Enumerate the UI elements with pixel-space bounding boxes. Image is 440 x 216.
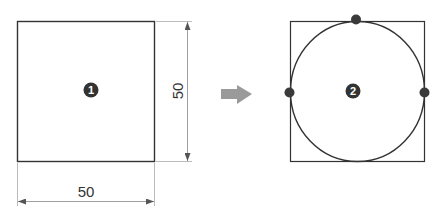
step2-marker-number: 2 xyxy=(350,85,356,97)
width-dimension-label: 50 xyxy=(78,183,95,200)
tangent-point-right xyxy=(420,88,430,98)
tangent-point-top xyxy=(351,15,361,25)
tangent-point-left xyxy=(285,88,295,98)
right-arrow-icon xyxy=(221,85,252,104)
step1-marker-number: 1 xyxy=(88,84,94,96)
height-dimension-label: 50 xyxy=(169,83,186,100)
step2-marker: 2 xyxy=(346,84,361,99)
step2-group: 2 xyxy=(285,15,430,162)
step1-group: 50 50 1 xyxy=(18,22,193,207)
step1-marker: 1 xyxy=(84,83,99,98)
diagram-canvas: 50 50 1 2 xyxy=(0,0,440,216)
